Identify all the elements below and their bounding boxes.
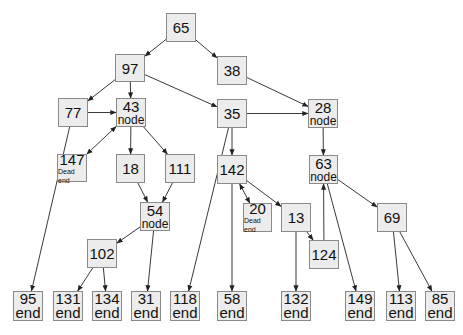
- node-label: 13: [288, 210, 305, 225]
- node-sublabel: end: [133, 306, 158, 320]
- node-18: 18: [116, 154, 145, 183]
- node-sublabel: Dead end: [58, 167, 86, 185]
- edge-54-to-31: [148, 231, 154, 291]
- node-label: 97: [122, 61, 139, 76]
- node-134: 134end: [92, 291, 122, 321]
- node-13: 13: [281, 203, 311, 232]
- edge-43-to-147: [87, 127, 116, 154]
- node-sublabel: end: [347, 306, 372, 320]
- edge-69-to-85: [400, 232, 432, 291]
- edge-102-to-134: [103, 268, 105, 291]
- node-sublabel: end: [283, 306, 308, 320]
- node-58: 58end: [217, 291, 247, 321]
- node-sublabel: node: [310, 115, 337, 128]
- node-149: 149end: [345, 291, 375, 321]
- node-95: 95end: [13, 291, 43, 321]
- node-31: 31end: [131, 291, 161, 321]
- node-sublabel: end: [219, 306, 244, 320]
- node-label: 65: [173, 20, 190, 35]
- node-label: 111: [169, 161, 192, 176]
- node-sublabel: node: [142, 218, 169, 231]
- edge-18-to-54: [138, 183, 148, 202]
- node-sublabel: end: [427, 306, 452, 320]
- node-28: 28node: [308, 99, 338, 128]
- node-124: 124: [309, 240, 339, 269]
- edge-63-to-69: [338, 180, 377, 207]
- edge-111-to-54: [163, 183, 173, 202]
- edge-38-to-28: [247, 78, 308, 107]
- node-label: 77: [65, 105, 82, 120]
- edge-54-to-102: [117, 227, 140, 243]
- node-label: 43: [123, 99, 140, 114]
- node-63: 63node: [309, 155, 338, 184]
- node-label: 124: [311, 247, 336, 262]
- node-69: 69: [377, 203, 407, 232]
- node-77: 77: [58, 98, 88, 127]
- node-label: 35: [224, 106, 241, 121]
- edge-69-to-113: [393, 232, 399, 291]
- node-111: 111: [165, 154, 195, 183]
- node-142: 142: [217, 155, 247, 184]
- node-20: 20Dead end: [243, 203, 272, 232]
- node-131: 131end: [53, 291, 83, 321]
- node-sublabel: end: [172, 306, 197, 320]
- edge-97-to-35: [145, 75, 217, 107]
- node-sublabel: node: [310, 171, 337, 184]
- node-113: 113end: [386, 291, 416, 321]
- node-label: 28: [315, 100, 332, 115]
- node-sublabel: Dead end: [244, 216, 271, 234]
- node-sublabel: end: [55, 306, 80, 320]
- node-54: 54node: [140, 202, 170, 231]
- node-sublabel: end: [15, 306, 40, 320]
- node-sublabel: end: [94, 306, 119, 320]
- edge-97-to-77: [88, 80, 115, 101]
- node-label: 147: [59, 152, 84, 167]
- node-35: 35: [217, 99, 247, 128]
- node-102: 102: [87, 239, 117, 268]
- node-38: 38: [217, 56, 247, 85]
- edge-43-to-111: [144, 127, 168, 154]
- node-118: 118end: [170, 291, 200, 321]
- edge-13-to-124: [307, 232, 313, 240]
- node-label: 54: [147, 203, 164, 218]
- node-label: 69: [384, 210, 401, 225]
- node-label: 18: [122, 161, 139, 176]
- node-label: 20: [249, 201, 266, 216]
- node-label: 102: [89, 246, 114, 261]
- node-65: 65: [166, 13, 196, 42]
- node-label: 38: [224, 63, 241, 78]
- node-147: 147Dead end: [57, 154, 87, 182]
- node-label: 63: [315, 156, 332, 171]
- edge-65-to-38: [196, 40, 217, 58]
- node-97: 97: [115, 54, 145, 82]
- edge-63-to-149: [327, 184, 356, 291]
- node-43: 43node: [116, 98, 146, 127]
- edge-65-to-97: [145, 39, 166, 56]
- node-85: 85end: [425, 291, 455, 321]
- node-sublabel: node: [118, 114, 145, 127]
- edge-35-to-118: [189, 128, 229, 291]
- node-label: 142: [219, 162, 244, 177]
- node-sublabel: end: [388, 306, 413, 320]
- node-132: 132end: [281, 291, 311, 321]
- edge-102-to-131: [78, 268, 93, 291]
